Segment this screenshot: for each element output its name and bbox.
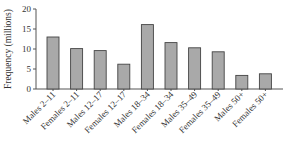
y-tick-label: 15 [22,24,32,34]
bar [141,25,153,89]
bar [259,74,271,89]
bar [212,52,224,89]
bar [47,37,59,89]
y-tick-label: 10 [22,44,32,54]
y-tick-label: 0 [27,84,32,94]
y-tick-label: 20 [22,4,32,14]
y-axis-label: Frequency (millions) [3,9,14,89]
bar [118,64,130,89]
y-tick-label: 5 [27,64,32,74]
bar-chart: 05101520 Males 2–11Females 2–11Males 12–… [0,0,283,145]
x-axis-labels: Males 2–11Females 2–11Males 12–17Females… [21,89,270,135]
bar [165,43,177,89]
bar [189,48,201,89]
bar [94,51,106,89]
bar [71,49,83,89]
bars [47,25,271,89]
bar [236,75,248,89]
